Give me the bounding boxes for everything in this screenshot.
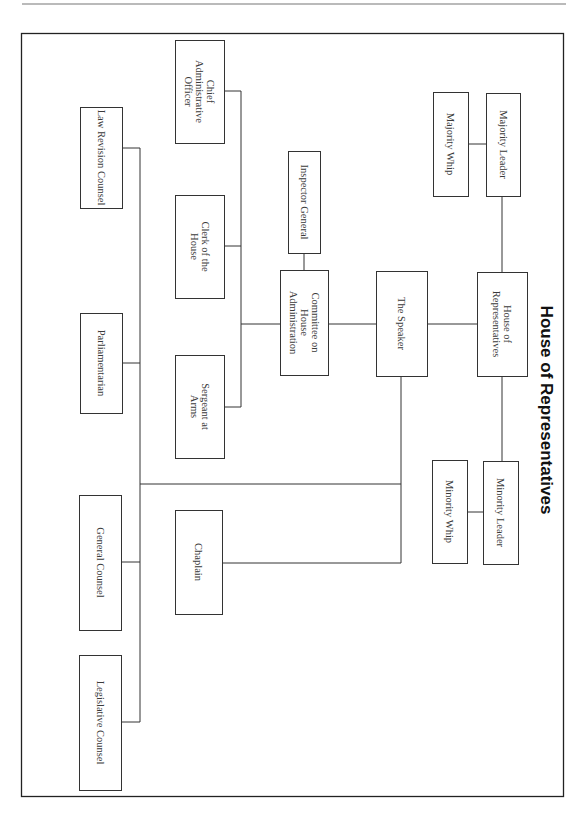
node-law-revision-counsel: Law Revision Counsel — [81, 108, 123, 209]
node-majority-leader: Majority Leader — [487, 94, 521, 197]
node-label: Sergeant at — [200, 383, 211, 430]
node-label: Legislative Counsel — [95, 681, 106, 765]
node-house: House ofRepresentatives — [478, 273, 528, 377]
node-inspector-general: Inspector General — [289, 152, 321, 254]
node-label: Representatives — [491, 291, 502, 357]
node-majority-whip: Majority Whip — [434, 93, 469, 197]
node-label: General Counsel — [95, 527, 106, 597]
chart-title: House of Representatives — [537, 306, 556, 515]
node-general-counsel: General Counsel — [80, 496, 122, 631]
node-label: Inspector General — [299, 165, 310, 240]
node-label: Administrative — [194, 60, 205, 123]
node-clerk: Clerk of theHouse — [176, 196, 225, 299]
node-sergeant-at-arms: Sergeant atArms — [176, 356, 225, 459]
node-label: The Speaker — [396, 297, 407, 350]
node-chief-admin-officer: ChiefAdministrativeOfficer — [176, 41, 225, 144]
node-minority-leader: Minority Leader — [484, 462, 519, 565]
node-label: Committee on — [310, 293, 321, 354]
node-label: Minority Whip — [444, 480, 455, 543]
node-label: Chief — [205, 80, 216, 104]
node-minority-whip: Minority Whip — [433, 461, 468, 564]
node-committee: Committee onHouseAdministration — [281, 271, 329, 376]
node-label: Parliamentarian — [96, 330, 107, 397]
node-speaker: The Speaker — [377, 272, 428, 377]
boxes: Majority LeaderMajority WhipHouse ofRepr… — [80, 41, 528, 791]
node-legislative-counsel: Legislative Counsel — [80, 656, 122, 791]
node-chaplain: Chaplain — [176, 511, 223, 615]
node-label: Administration — [288, 291, 299, 355]
node-label: Chaplain — [193, 543, 204, 582]
node-label: House — [299, 309, 310, 336]
node-label: Majority Whip — [445, 113, 456, 176]
node-label: Officer — [183, 76, 194, 107]
node-label: Majority Leader — [498, 110, 509, 179]
node-parliamentarian: Parliamentarian — [81, 314, 123, 414]
org-chart: House of Representatives Majority Leader… — [0, 0, 581, 813]
node-label: House of — [502, 305, 513, 344]
node-label: Clerk of the — [200, 221, 211, 271]
node-label: Law Revision Counsel — [96, 110, 107, 206]
node-label: Minority Leader — [495, 478, 506, 548]
node-label: House — [189, 233, 200, 260]
node-label: Arms — [189, 395, 200, 418]
